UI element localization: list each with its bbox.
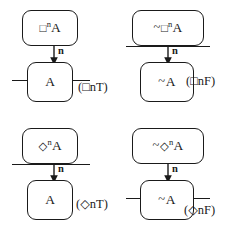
conclusion-formula: A — [45, 193, 55, 207]
rule-diamond-n-true: ◇nA n A (◇nT) — [0, 118, 118, 235]
premise-node: ◇nA — [22, 128, 78, 164]
propositional-variable: A — [45, 74, 55, 89]
rule-label: (□nF) — [186, 74, 215, 89]
negation-symbol: ~ — [158, 192, 165, 206]
rule-diamond-n-false: ~◇nA n ~A (◇nF) — [118, 118, 236, 235]
propositional-variable: A — [166, 192, 176, 207]
arrow-label: n — [58, 45, 64, 56]
negation-symbol: ~ — [158, 74, 165, 88]
conclusion-formula: ~A — [158, 193, 175, 207]
rule-label: (◇nT) — [76, 196, 108, 212]
modal-rules-diagram: □nA n A (□nT) ~□nA n ~A ( — [0, 0, 236, 235]
propositional-variable: A — [174, 138, 184, 153]
premise-formula: □nA — [39, 21, 61, 35]
propositional-variable: A — [173, 20, 183, 35]
rule-truth-value: F) — [204, 74, 215, 88]
conclusion-node: A — [27, 180, 73, 220]
premise-node: □nA — [22, 10, 78, 46]
rule-truth-value: F) — [204, 203, 215, 217]
premise-formula: ◇nA — [38, 139, 62, 153]
rule-label: (□nT) — [78, 80, 108, 95]
premise-node: ~◇nA — [132, 128, 204, 164]
premise-formula: ~◇nA — [153, 139, 184, 153]
propositional-variable: A — [166, 74, 176, 89]
negation-symbol: ~ — [153, 138, 160, 152]
rule-truth-value: T) — [96, 197, 108, 211]
conclusion-formula: ~A — [158, 75, 175, 89]
propositional-variable: A — [52, 138, 62, 153]
premise-formula: ~□nA — [153, 21, 182, 35]
conclusion-node: A — [27, 62, 73, 102]
modal-operator-icon: □ — [82, 80, 90, 94]
modal-operator-icon: ◇ — [188, 203, 198, 217]
modal-operator-icon: ◇ — [80, 197, 90, 211]
modal-operator-icon: ◇ — [39, 140, 48, 152]
arrow-label: n — [172, 163, 178, 174]
modal-operator-icon: ◇ — [160, 140, 169, 152]
arrow-label: n — [172, 45, 178, 56]
rule-truth-value: T) — [96, 80, 108, 94]
modal-operator-icon: □ — [190, 74, 198, 88]
modal-operator-icon: □ — [161, 22, 168, 34]
arrow-label: n — [58, 163, 64, 174]
premise-node: ~□nA — [132, 10, 204, 46]
propositional-variable: A — [45, 192, 55, 207]
modal-operator-icon: □ — [39, 22, 46, 34]
rule-label: (◇nF) — [184, 202, 215, 218]
rule-box-n-false: ~□nA n ~A (□nF) — [118, 0, 236, 117]
propositional-variable: A — [51, 20, 61, 35]
negation-symbol: ~ — [153, 20, 160, 34]
rule-box-n-true: □nA n A (□nT) — [0, 0, 118, 117]
conclusion-formula: A — [45, 75, 55, 89]
